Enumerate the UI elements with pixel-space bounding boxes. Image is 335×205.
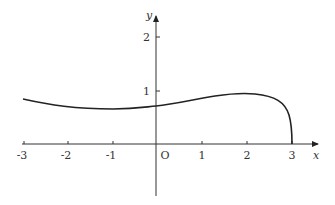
- x-axis-label: x: [313, 149, 320, 162]
- y-tick-label-1: 1: [143, 85, 150, 98]
- svg-text:1: 1: [199, 149, 206, 162]
- svg-text:-2: -2: [61, 149, 72, 162]
- y-tick-label-2: 2: [143, 31, 150, 44]
- svg-text:-1: -1: [106, 149, 117, 162]
- y-axis-label: y: [145, 9, 153, 22]
- svg-text:-3: -3: [17, 149, 28, 162]
- svg-text:3: 3: [289, 149, 296, 162]
- function-graph: -3 -2 -1 1 2 3 O x 1 2 y: [0, 0, 335, 205]
- svg-text:2: 2: [244, 149, 251, 162]
- y-ticks: [156, 37, 160, 91]
- function-curve: [23, 93, 292, 144]
- origin-label: O: [160, 149, 169, 162]
